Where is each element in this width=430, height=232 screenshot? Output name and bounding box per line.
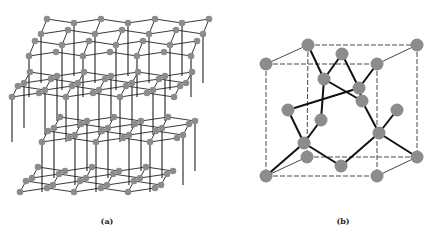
atom-btl bbox=[302, 39, 315, 52]
atom bbox=[104, 182, 111, 189]
bond bbox=[137, 52, 164, 56]
atom bbox=[117, 94, 124, 101]
atom bbox=[125, 189, 132, 196]
bond bbox=[135, 124, 162, 128]
atom bbox=[93, 139, 100, 146]
atom-i3 bbox=[298, 137, 311, 150]
bond bbox=[75, 131, 102, 135]
atom bbox=[206, 16, 213, 23]
atom-top bbox=[336, 48, 349, 61]
bond bbox=[126, 86, 153, 90]
atom bbox=[26, 53, 33, 60]
atom bbox=[140, 38, 147, 45]
atom bbox=[23, 178, 30, 185]
atom bbox=[152, 185, 159, 192]
bond bbox=[95, 30, 122, 34]
panel-a-hexagonal-lattice bbox=[9, 16, 213, 196]
atom-i4 bbox=[373, 127, 386, 140]
atom bbox=[75, 80, 82, 87]
bond bbox=[18, 86, 45, 90]
atom-i1 bbox=[318, 73, 331, 86]
bond bbox=[150, 138, 177, 142]
atom bbox=[200, 31, 207, 38]
bond bbox=[45, 86, 72, 90]
atom bbox=[69, 83, 76, 90]
atom bbox=[96, 87, 103, 94]
atom bbox=[177, 83, 184, 90]
atom bbox=[80, 53, 87, 60]
bond bbox=[74, 188, 101, 192]
atom bbox=[150, 87, 157, 94]
atom bbox=[54, 73, 61, 80]
bond bbox=[83, 52, 110, 56]
atom bbox=[123, 83, 130, 90]
bond bbox=[101, 188, 128, 192]
bond bbox=[62, 41, 89, 45]
bond bbox=[105, 79, 132, 83]
atom bbox=[98, 185, 105, 192]
bond bbox=[168, 117, 195, 121]
atom bbox=[170, 168, 177, 175]
atom bbox=[110, 171, 117, 178]
atom bbox=[135, 69, 142, 76]
bond bbox=[39, 93, 66, 97]
bond bbox=[138, 72, 165, 76]
atom bbox=[59, 42, 66, 49]
atom bbox=[119, 27, 126, 34]
atom bbox=[173, 27, 180, 34]
atom-ftl bbox=[260, 58, 273, 71]
atom bbox=[63, 94, 70, 101]
atom bbox=[152, 16, 159, 23]
bond bbox=[86, 174, 113, 178]
bond bbox=[102, 131, 129, 135]
atom bbox=[99, 128, 106, 135]
bond bbox=[56, 52, 83, 56]
atom bbox=[132, 121, 139, 128]
atom bbox=[45, 128, 52, 135]
atom bbox=[146, 31, 153, 38]
atom bbox=[89, 164, 96, 171]
bond bbox=[119, 167, 146, 171]
atom bbox=[65, 27, 72, 34]
bond bbox=[116, 41, 143, 45]
atom bbox=[27, 69, 34, 76]
bond bbox=[132, 79, 159, 83]
atom bbox=[183, 80, 190, 87]
atom bbox=[143, 164, 150, 171]
bond bbox=[379, 133, 417, 157]
bond bbox=[60, 117, 87, 121]
atom bbox=[53, 49, 60, 56]
bond bbox=[123, 138, 150, 142]
bond bbox=[66, 93, 93, 97]
bond bbox=[120, 93, 147, 97]
atom bbox=[72, 132, 79, 139]
atom bbox=[129, 80, 136, 87]
bond bbox=[153, 86, 180, 90]
panel-a-bonds bbox=[12, 19, 209, 192]
atom bbox=[131, 178, 138, 185]
atom bbox=[71, 189, 78, 196]
atom bbox=[156, 76, 163, 83]
bond bbox=[30, 72, 57, 76]
bond bbox=[162, 124, 189, 128]
atom bbox=[165, 114, 172, 121]
bond bbox=[24, 79, 51, 83]
atom bbox=[125, 20, 132, 27]
atom bbox=[194, 38, 201, 45]
atom bbox=[179, 20, 186, 27]
atom bbox=[50, 182, 57, 189]
bond bbox=[41, 30, 68, 34]
atom bbox=[174, 135, 181, 142]
bond bbox=[42, 138, 69, 142]
bond bbox=[53, 181, 80, 185]
bond bbox=[12, 93, 39, 97]
atom bbox=[158, 182, 165, 189]
atom bbox=[137, 175, 144, 182]
bond bbox=[65, 167, 92, 171]
bond bbox=[155, 19, 182, 23]
atom bbox=[21, 80, 28, 87]
atom-ftr bbox=[371, 58, 384, 71]
crystal-structure-figure bbox=[0, 0, 430, 232]
cube-edge bbox=[377, 45, 417, 64]
bond bbox=[111, 72, 138, 76]
